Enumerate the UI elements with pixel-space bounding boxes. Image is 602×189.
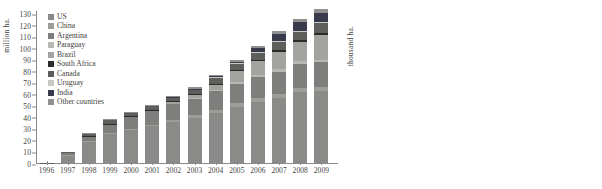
bar-slot: [163, 14, 184, 164]
x-tick-label: 2001: [142, 166, 163, 175]
bar-segment-other-countries: [251, 46, 265, 48]
y-tick-label: 20: [23, 136, 36, 145]
bar-segment-paraguay: [209, 90, 223, 91]
y-tick-label: 90: [23, 56, 36, 65]
x-tick-label: 2007: [269, 166, 290, 175]
stacked-bar-2001[interactable]: [145, 105, 159, 164]
bar-segment-other-countries: [230, 60, 244, 62]
bar-segment-us: [272, 98, 286, 164]
bar-segment-paraguay: [188, 98, 202, 99]
legend-item-other-countries[interactable]: Other countries: [48, 98, 104, 108]
figure-two-stacked-bar-charts: million ha. 0102030405060708090100110120…: [0, 0, 602, 189]
y-tick-label: 130: [19, 10, 36, 19]
stacked-bar-2006[interactable]: [251, 46, 265, 164]
legend-item-india[interactable]: India: [48, 88, 104, 98]
legend-item-canada[interactable]: Canada: [48, 69, 104, 79]
bar-segment-canada: [166, 97, 180, 101]
stacked-bar-2009[interactable]: [314, 9, 328, 164]
bar-segment-china: [230, 103, 244, 107]
bar-segment-uruguay: [314, 22, 328, 23]
bar-segment-canada: [251, 53, 265, 60]
y-tick-label: 100: [19, 44, 36, 53]
stacked-bar-2008[interactable]: [293, 19, 307, 164]
y-tick-label: 110: [20, 33, 36, 42]
x-tick-label: 1999: [99, 166, 120, 175]
bar-segment-china: [145, 125, 159, 126]
y-tick-label: 60: [23, 90, 36, 99]
legend-swatch-icon: [48, 99, 54, 105]
bar-segment-brazil: [314, 35, 328, 60]
legend-label: Other countries: [57, 97, 104, 107]
x-tick-label: 1996: [36, 166, 57, 175]
bar-segment-china: [209, 110, 223, 114]
bar-segment-us: [124, 130, 138, 164]
bar-segment-other-countries: [166, 96, 180, 97]
stacked-bar-2005[interactable]: [230, 60, 244, 164]
bar-segment-canada: [293, 31, 307, 40]
bar-segment-other-countries: [209, 75, 223, 77]
bar-segment-china: [314, 87, 328, 91]
bar-segment-south-africa: [272, 50, 286, 52]
bar-segment-brazil: [124, 116, 138, 118]
bar-segment-other-countries: [145, 105, 159, 106]
legend-item-us[interactable]: US: [48, 12, 104, 22]
legend-item-brazil[interactable]: Brazil: [48, 50, 104, 60]
stacked-bar-2002[interactable]: [166, 96, 180, 164]
stacked-bar-2000[interactable]: [124, 112, 138, 164]
stacked-bar-2004[interactable]: [209, 75, 223, 164]
y-tick-label: 0: [27, 160, 36, 169]
bar-segment-india: [293, 22, 307, 31]
chart-panel-europe: thousand ha. 0306090120150180210 51.2254…: [340, 0, 602, 189]
bar-segment-other-countries: [272, 31, 286, 34]
legend-item-south-africa[interactable]: South Africa: [48, 60, 104, 70]
legend-swatch-icon: [48, 52, 54, 58]
bar-segment-china: [272, 94, 286, 98]
legend-swatch-icon: [48, 14, 54, 20]
legend-item-paraguay[interactable]: Paraguay: [48, 41, 104, 51]
y-axis-title-right: thousand ha.: [346, 26, 355, 66]
bar-slot: [226, 14, 247, 164]
legend-item-china[interactable]: China: [48, 22, 104, 32]
bar-slot: [311, 14, 332, 164]
bar-segment-canada: [209, 77, 223, 83]
legend-left: USChinaArgentinaParaguayBrazilSouth Afri…: [48, 12, 104, 107]
stacked-bar-2007[interactable]: [272, 31, 286, 164]
stacked-bar-2003[interactable]: [188, 87, 202, 164]
bar-segment-argentina: [230, 84, 244, 104]
bar-segment-china: [251, 98, 265, 102]
bar-segment-brazil: [145, 110, 159, 112]
bar-segment-us: [188, 118, 202, 164]
bar-segment-brazil: [293, 42, 307, 60]
bar-segment-india: [230, 62, 244, 64]
bar-segment-us: [230, 107, 244, 164]
bar-segment-canada: [103, 119, 117, 124]
x-tick-label: 2002: [163, 166, 184, 175]
stacked-bar-1998[interactable]: [82, 133, 96, 164]
bar-segment-other-countries: [124, 112, 138, 113]
x-tick-label: 2006: [247, 166, 268, 175]
bar-segment-argentina: [314, 62, 328, 87]
bar-slot: [184, 14, 205, 164]
bar-segment-china: [82, 141, 96, 142]
bar-segment-india: [209, 76, 223, 77]
bar-segment-canada: [272, 42, 286, 50]
bar-segment-china: [188, 115, 202, 117]
bar-segment-other-countries: [293, 19, 307, 22]
bar-segment-uruguay: [272, 41, 286, 42]
legend-swatch-icon: [48, 61, 54, 67]
bar-segment-argentina: [209, 91, 223, 110]
x-tick-label: 2000: [121, 166, 142, 175]
bar-segment-argentina: [166, 104, 180, 120]
chart-panel-global: million ha. 0102030405060708090100110120…: [0, 0, 340, 189]
bar-segment-canada: [145, 106, 159, 110]
bar-segment-india: [272, 34, 286, 41]
bar-segment-south-africa: [314, 33, 328, 35]
legend-item-argentina[interactable]: Argentina: [48, 31, 104, 41]
stacked-bar-1999[interactable]: [103, 119, 117, 164]
legend-swatch-icon: [48, 33, 54, 39]
bar-slot: [247, 14, 268, 164]
x-tick-label: 2005: [226, 166, 247, 175]
bar-segment-canada: [314, 23, 328, 32]
legend-item-uruguay[interactable]: Uruguay: [48, 79, 104, 89]
bar-segment-us: [314, 91, 328, 164]
